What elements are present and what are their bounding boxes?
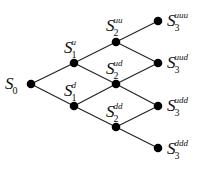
label-superscript: ud xyxy=(114,58,123,68)
tree-nodes xyxy=(27,17,163,153)
tree-edges xyxy=(31,21,158,148)
node-dot-S3uuu xyxy=(154,17,163,26)
label-superscript: ddd xyxy=(175,138,189,148)
label-superscript: d xyxy=(72,80,77,90)
label-superscript: uu xyxy=(114,15,123,25)
node-label-S1u: S1u xyxy=(64,39,82,56)
label-subscript: 3 xyxy=(175,150,180,161)
label-superscript: u xyxy=(72,37,77,47)
label-superscript: dd xyxy=(114,101,123,111)
label-superscript: udd xyxy=(175,95,189,105)
label-superscript: uuu xyxy=(175,10,189,20)
label-subscript: 2 xyxy=(114,70,119,81)
label-subscript: 3 xyxy=(175,22,180,33)
label-subscript: 1 xyxy=(72,92,77,103)
node-dot-S3udd xyxy=(154,102,163,111)
label-subscript: 0 xyxy=(13,85,18,96)
label-subscript: 3 xyxy=(175,107,180,118)
node-label-S2ud: S2ud xyxy=(106,60,129,77)
node-label-S1d: S1d xyxy=(64,82,82,99)
label-subscript: 3 xyxy=(175,64,180,75)
node-dot-S3uud xyxy=(154,59,163,68)
node-label-S0: S0 xyxy=(5,75,19,92)
node-dot-S2uu xyxy=(112,38,121,47)
node-label-S3uuu: S3uuu xyxy=(167,12,194,29)
label-subscript: 2 xyxy=(114,27,119,38)
node-dot-S0 xyxy=(27,80,36,89)
node-label-S2dd: S2dd xyxy=(106,103,129,120)
label-subscript: 2 xyxy=(114,113,119,124)
node-label-S3ddd: S3ddd xyxy=(167,140,194,157)
node-label-S3uud: S3uud xyxy=(167,54,194,71)
node-dot-S3ddd xyxy=(154,144,163,153)
edge-S2dd-S3ddd xyxy=(116,127,158,148)
label-subscript: 1 xyxy=(72,49,77,60)
label-superscript: uud xyxy=(175,52,189,62)
node-label-S3udd: S3udd xyxy=(167,97,194,114)
node-label-S2uu: S2uu xyxy=(106,17,129,34)
